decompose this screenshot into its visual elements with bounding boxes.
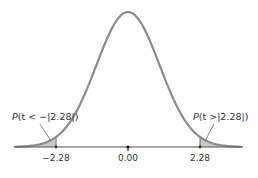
- t-distribution-chart: −2.28 0.00 2.28 P(t < −|2.28|) P(t >|2.2…: [0, 0, 258, 178]
- tick-label-left: −2.28: [42, 153, 70, 163]
- right-tail-annotation: P(t >|2.28|): [193, 111, 248, 122]
- tick-right-marker: [199, 146, 202, 149]
- density-curve: [14, 12, 241, 147]
- right-annotation-rest: (t >|2.28|): [199, 111, 249, 122]
- left-tail-annotation: P(t < −|2.28|): [12, 111, 78, 122]
- tick-label-center: 0.00: [118, 153, 138, 163]
- tick-left-marker: [55, 146, 58, 149]
- left-annotation-leader: [40, 124, 51, 141]
- left-annotation-rest: (t < −|2.28|): [18, 111, 79, 122]
- right-annotation-leader: [205, 124, 214, 141]
- tick-label-right: 2.28: [190, 153, 210, 163]
